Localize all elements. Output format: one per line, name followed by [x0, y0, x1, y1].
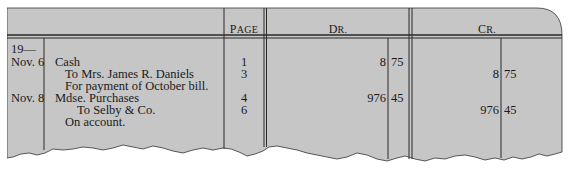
header-page: PAGE	[224, 22, 264, 37]
entry-explanation: On account.	[65, 116, 125, 129]
debit-cents: 75	[391, 56, 404, 69]
credit-cents: 45	[504, 104, 517, 117]
page-ref: 3	[224, 68, 264, 81]
page-ref: 6	[224, 104, 264, 117]
header-credit: CR.	[412, 22, 562, 37]
credit-dollars: 976	[427, 104, 499, 117]
entry-date: Nov. 8	[11, 92, 44, 105]
debit-dollars: 8	[307, 56, 386, 69]
entry-date: Nov. 6	[11, 56, 44, 69]
debit-dollars: 976	[307, 92, 386, 105]
debit-cents: 45	[391, 92, 404, 105]
credit-cents: 75	[504, 68, 517, 81]
header-debit: DR.	[267, 22, 409, 37]
credit-dollars: 8	[427, 68, 499, 81]
journal-sheet: PAGE DR. CR. 19— Nov. 6 Cash To Mrs. Jam…	[7, 7, 563, 167]
